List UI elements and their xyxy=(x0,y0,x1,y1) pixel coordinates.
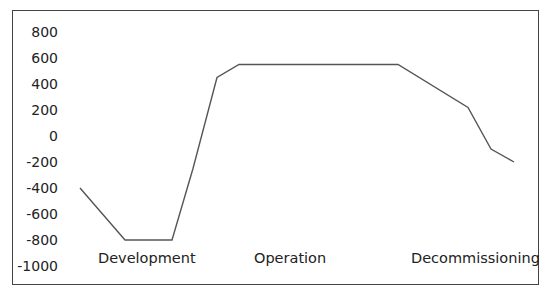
y-tick-label: 600 xyxy=(31,50,58,66)
y-tick-label: -1000 xyxy=(17,258,58,274)
line-chart: 8006004002000-200-400-600-800-1000 Devel… xyxy=(0,0,551,292)
data-line xyxy=(80,65,514,241)
phase-label-decommissioning: Decommissioning xyxy=(411,250,540,266)
y-tick-label: -800 xyxy=(26,232,58,248)
phase-label-development: Development xyxy=(98,250,196,266)
y-tick-label: -600 xyxy=(26,206,58,222)
y-tick-label: 400 xyxy=(31,76,58,92)
y-tick-label: -200 xyxy=(26,154,58,170)
y-tick-label: 200 xyxy=(31,102,58,118)
y-axis-ticks: 8006004002000-200-400-600-800-1000 xyxy=(17,24,58,274)
y-tick-label: -400 xyxy=(26,180,58,196)
y-tick-label: 0 xyxy=(49,128,58,144)
phase-label-operation: Operation xyxy=(254,250,326,266)
y-tick-label: 800 xyxy=(31,24,58,40)
